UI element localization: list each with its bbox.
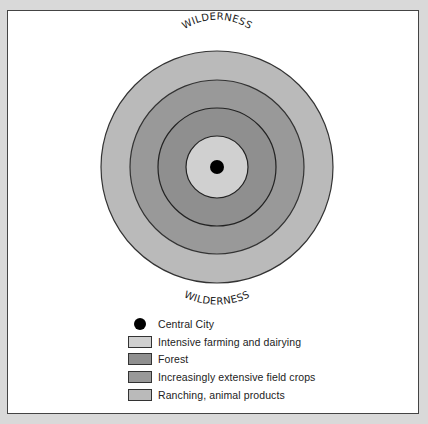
- legend-label: Forest: [158, 353, 188, 365]
- legend-item-central-city: Central City: [128, 317, 214, 331]
- legend-item-ranching: Ranching, animal products: [128, 388, 285, 402]
- bottom-wilderness-label: WILDERNESS: [183, 289, 251, 307]
- legend-label: Ranching, animal products: [158, 389, 285, 401]
- forest-swatch-icon: [128, 353, 152, 365]
- ranching-swatch-icon: [128, 389, 152, 401]
- legend-label: Central City: [158, 318, 214, 330]
- legend-item-forest: Forest: [128, 352, 188, 366]
- legend-label: Increasingly extensive field crops: [158, 371, 315, 383]
- central-city-dot-icon: [134, 318, 146, 330]
- legend-item-intensive-farming: Intensive farming and dairying: [128, 335, 301, 349]
- legend-label: Intensive farming and dairying: [158, 336, 301, 348]
- intensive-farming-swatch-icon: [128, 336, 152, 348]
- top-wilderness-label: WILDERNESS: [180, 11, 254, 31]
- field-crops-swatch-icon: [128, 371, 152, 383]
- legend-item-field-crops: Increasingly extensive field crops: [128, 370, 315, 384]
- concentric-zone-diagram: WILDERNESS WILDERNESS: [0, 0, 428, 424]
- central-city-dot: [210, 160, 224, 174]
